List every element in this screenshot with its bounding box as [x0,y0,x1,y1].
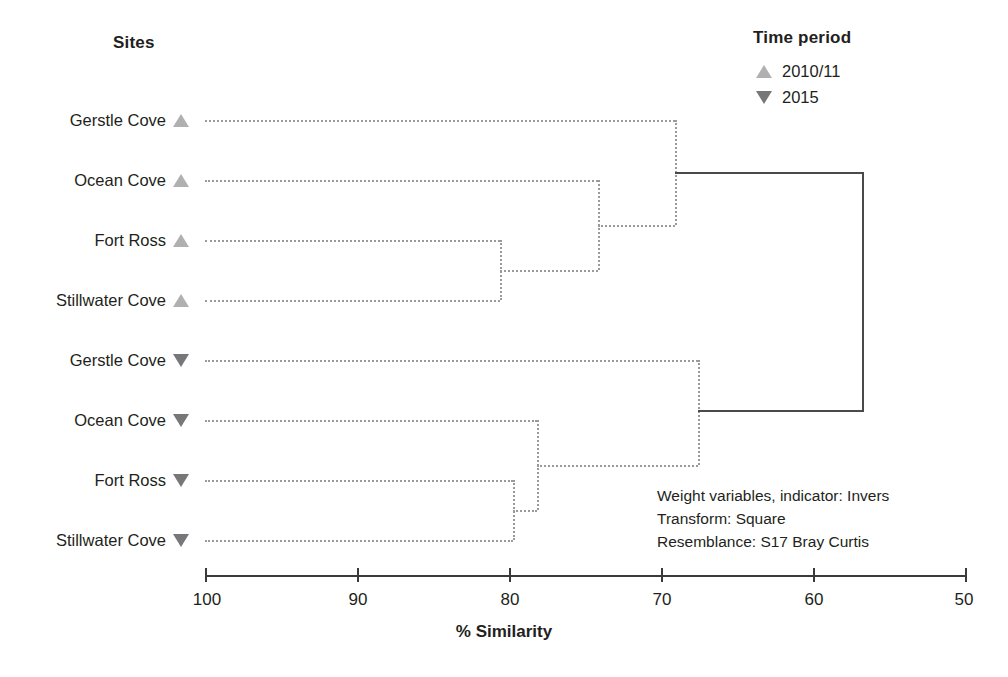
branch-leaf-gerstle-cove-2010-11 [205,120,675,122]
root-node-vertical [862,172,864,412]
leaf-label-ocean-cove-2015: Ocean Cove [0,408,196,432]
triangle-up-icon [166,294,196,307]
triangle-down-icon [166,414,196,427]
branch-leaf-fort-ross-2015 [205,480,513,482]
annotation-block: Weight variables, indicator: Invers Tran… [657,484,997,553]
leaf-label-text: Ocean Cove [74,171,166,190]
leaf-label-text: Stillwater Cove [56,291,166,310]
leaf-label-text: Gerstle Cove [70,111,166,130]
legend-item-label: 2015 [782,88,819,107]
dendrogram-figure: Sites Time period 2010/11 2015 Gerstle C… [0,0,1008,677]
triangle-down-icon [166,354,196,367]
triangle-up-icon [166,114,196,127]
leaf-label-text: Stillwater Cove [56,531,166,550]
merge-node-m4-connector [513,510,537,512]
branch-leaf-stillwater-cove-2010-11 [205,300,500,302]
triangle-down-icon [753,91,775,104]
branch-leaf-fort-ross-2010-11 [205,240,500,242]
leaf-label-stillwater-cove-2015: Stillwater Cove [0,528,196,552]
branch-leaf-gerstle-cove-2015 [205,360,698,362]
leaf-label-gerstle-cove-2015: Gerstle Cove [0,348,196,372]
leaf-label-text: Fort Ross [94,471,166,490]
x-axis-tick-label: 60 [805,590,824,610]
leaf-label-fort-ross-2015: Fort Ross [0,468,196,492]
leaf-label-fort-ross-2010-11: Fort Ross [0,228,196,252]
x-axis-title: % Similarity [0,622,1008,642]
x-axis-line [205,575,965,577]
x-axis-tick [661,568,663,582]
annotation-line-transform: Transform: Square [657,507,997,530]
legend-item-2015: 2015 [753,84,973,110]
x-axis-tick [205,568,207,582]
x-axis-tick [509,568,511,582]
leaf-label-text: Gerstle Cove [70,351,166,370]
legend: 2010/11 2015 [753,58,973,110]
x-axis-tick-label: 100 [193,590,221,610]
x-axis-tick-label: 90 [349,590,368,610]
x-axis-tick-label: 80 [501,590,520,610]
leaf-label-ocean-cove-2010-11: Ocean Cove [0,168,196,192]
annotation-line-resemblance: Resemblance: S17 Bray Curtis [657,530,997,553]
triangle-up-icon [166,234,196,247]
branch-leaf-ocean-cove-2015 [205,420,537,422]
triangle-up-icon [166,174,196,187]
triangle-up-icon [753,65,775,78]
x-axis-tick-label: 70 [653,590,672,610]
sites-column-heading: Sites [113,33,155,53]
merge-node-m6-vertical [698,360,700,465]
merge-node-m5-connector [537,465,698,467]
legend-title: Time period [753,28,851,48]
x-axis-tick [813,568,815,582]
legend-item-2010-11: 2010/11 [753,58,973,84]
branch-leaf-stillwater-cove-2015 [205,540,513,542]
branch-leaf-ocean-cove-2010-11 [205,180,598,182]
root-connector-lower [698,410,863,412]
leaf-label-gerstle-cove-2010-11: Gerstle Cove [0,108,196,132]
leaf-label-text: Ocean Cove [74,411,166,430]
triangle-down-icon [166,534,196,547]
legend-item-label: 2010/11 [782,62,840,81]
merge-node-m2-connector [598,225,675,227]
x-axis-tick-label: 50 [955,590,974,610]
leaf-label-text: Fort Ross [94,231,166,250]
annotation-line-weight-variables: Weight variables, indicator: Invers [657,484,997,507]
merge-node-m1-connector [500,270,598,272]
triangle-down-icon [166,474,196,487]
x-axis-tick [357,568,359,582]
x-axis-tick [965,568,967,582]
leaf-label-stillwater-cove-2010-11: Stillwater Cove [0,288,196,312]
root-connector-upper [675,172,863,174]
